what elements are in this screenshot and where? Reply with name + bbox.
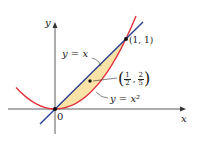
y-axis-arrow-icon: [53, 22, 58, 28]
point-1-1: [124, 37, 128, 41]
x-axis-arrow-icon: [180, 107, 186, 112]
leader-y-equals-x2: [96, 92, 108, 98]
diagram-canvas: [0, 0, 197, 147]
point-1-1-label: (1, 1): [129, 36, 153, 45]
x-denominator: 2: [125, 80, 129, 87]
y-axis-label: y: [45, 18, 51, 28]
point-centroid: [88, 79, 91, 82]
origin-label: 0: [57, 112, 63, 122]
y-denominator: 5: [139, 80, 143, 87]
x-axis-label: x: [181, 114, 187, 124]
parabola-label: y = x²: [110, 94, 140, 104]
line-label: y = x: [62, 49, 88, 59]
centroid-label: ( 1 2 , 2 5 ): [118, 71, 150, 87]
parabola-curve: [16, 88, 55, 116]
